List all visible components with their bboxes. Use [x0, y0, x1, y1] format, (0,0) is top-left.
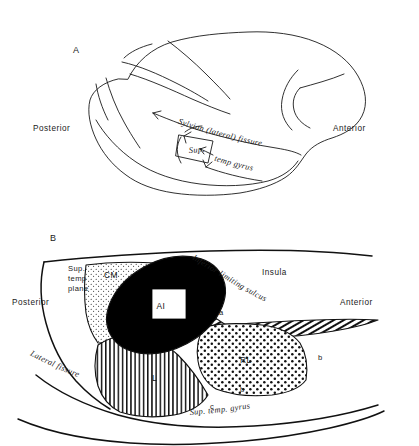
panel-b-supratemporal-plane: B Posterior Anterior Sup. temp plane CM …	[0, 223, 419, 446]
region-ai-label: AI	[157, 301, 166, 311]
panel-b-label: B	[50, 233, 56, 243]
region-cm-label: CM	[104, 270, 118, 280]
region-b-right-label: b	[318, 353, 323, 362]
region-insula-label: Insula	[262, 268, 287, 277]
region-sup-temp-plane-label-line2: temp	[68, 274, 86, 283]
region-sup-temp-plane-label-line3: plane	[68, 284, 89, 293]
panel-a-anterior-label: Anterior	[333, 124, 366, 133]
panel-a-temp-gyrus-label: temp gyrus	[213, 154, 254, 173]
panel-b-posterior-label: Posterior	[12, 298, 49, 307]
region-b-lower-label: b	[240, 385, 245, 394]
panel-a-sup-label: Sup.	[189, 145, 205, 155]
region-l-label: L	[152, 373, 157, 383]
region-sup-temp-plane-label-line1: Sup.	[68, 264, 85, 273]
panel-a-label: A	[73, 45, 79, 55]
region-rl-label: RL	[240, 355, 252, 365]
panel-a-lateral-brain-view: Sylvian (lateral) fissure Sup. temp gyru…	[0, 0, 419, 223]
panel-b-anterior-label: Anterior	[340, 298, 373, 307]
region-a-band-label: a	[219, 308, 224, 317]
figure-container: Sylvian (lateral) fissure Sup. temp gyru…	[0, 0, 419, 446]
panel-a-posterior-label: Posterior	[33, 124, 70, 133]
